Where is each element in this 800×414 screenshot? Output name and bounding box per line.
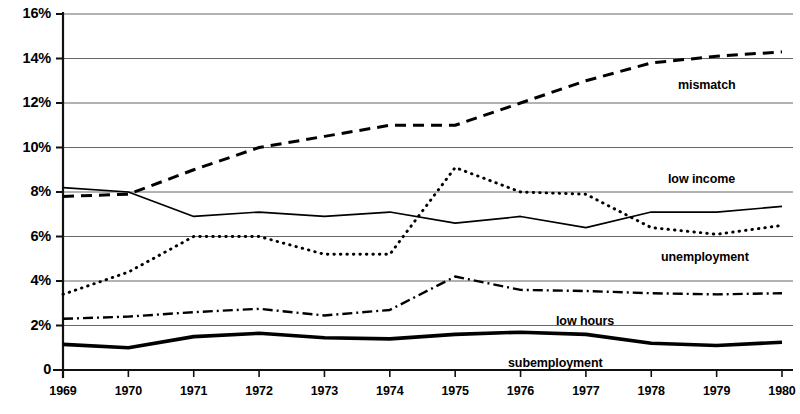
series-line-unemployment [63,188,782,228]
x-axis-tick-label: 1969 [33,384,93,398]
x-axis-tick-label: 1973 [294,384,354,398]
y-axis-tick-label: 16% [23,5,51,21]
y-axis-tick-label: 4% [30,272,51,288]
series-line-subemployment [63,332,782,348]
x-axis-tick-label: 1975 [425,384,485,398]
x-axis-tick-label: 1970 [98,384,158,398]
series-label-subemployment: subemployment [508,356,603,370]
series-label-low-income: low income [668,172,735,186]
series-label-unemployment: unemployment [661,250,749,264]
series-label-low-hours: low hours [556,314,614,328]
y-axis-tick-label: 8% [30,183,51,199]
x-axis-tick-label: 1972 [229,384,289,398]
x-axis-tick-label: 1980 [752,384,800,398]
series-line-low-hours [63,277,782,319]
x-axis-tick-label: 1979 [687,384,747,398]
y-axis-tick-label: 0 [43,361,51,377]
y-axis-tick-label: 6% [30,228,51,244]
data-series-group [63,52,782,348]
x-axis-tick-label: 1974 [360,384,420,398]
y-axis-tick-label: 10% [23,139,51,155]
series-label-mismatch: mismatch [678,78,736,92]
x-axis-tick-label: 1976 [491,384,551,398]
y-axis-tick-label: 2% [30,317,51,333]
series-line-low-income [63,168,782,295]
x-axis-tick-label: 1977 [556,384,616,398]
y-axis-tick-label: 14% [23,50,51,66]
axis-lines-group [53,12,793,378]
x-axis-tick-label: 1971 [164,384,224,398]
x-axis-tick-label: 1978 [621,384,681,398]
y-axis-tick-label: 12% [23,94,51,110]
